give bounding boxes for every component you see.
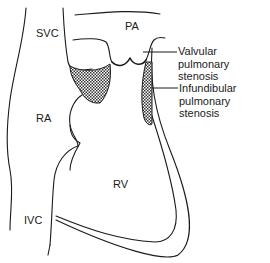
label-rv: RV [113,178,128,190]
annotation-infundibular-line3: stenosis [179,107,237,120]
valve-leaflets [112,58,146,65]
annotation-valvular-line1: Valvular pulmonary [178,45,270,70]
annotation-valvular: Valvular pulmonary stenosis [178,45,270,83]
pa-lower [73,39,112,62]
infundibular-hatch [70,64,111,103]
ra-contour [70,95,82,146]
annotation-infundibular-line1: Infundibular [179,82,237,95]
annotation-infundibular: Infundibular pulmonary stenosis [179,82,237,120]
label-ra: RA [36,112,51,124]
annotation-infundibular-line2: pulmonary [179,95,237,108]
pa-right-wall [146,38,165,60]
label-pa: PA [125,20,139,32]
valvular-hatch-right [142,62,152,125]
rv-inner [56,110,176,242]
pa-top [75,12,160,15]
annotation-valvular-line2: stenosis [178,70,270,83]
label-ivc: IVC [24,214,42,226]
ivc-line [48,245,50,255]
outer-left-contour [7,8,26,230]
ra-lower [50,146,78,245]
label-svc: SVC [36,27,59,39]
